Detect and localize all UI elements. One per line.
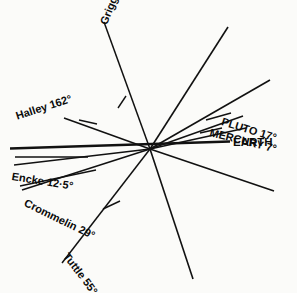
leader-halley [79, 120, 97, 124]
ray-pluto-opposite [150, 149, 274, 191]
ray-grigg-mellish-opposite [150, 149, 193, 279]
ray-grigg-mellish [104, 22, 150, 149]
leader-tuttle [103, 201, 120, 209]
leader-grigg [118, 96, 126, 108]
ray-group [10, 22, 274, 279]
ray-earth [10, 142, 230, 149]
inclination-diagram: EARTH MERCURY 7° PLUTO 17° Halley 162° G… [0, 0, 297, 293]
ray-tuttle [62, 149, 150, 263]
